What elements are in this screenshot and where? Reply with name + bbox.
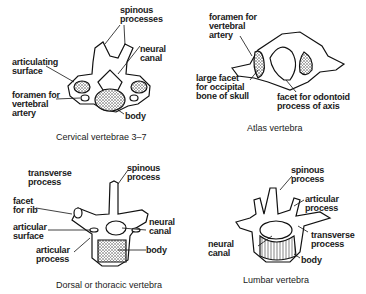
label-articulating-surface: articulating surface xyxy=(12,58,58,76)
label-spinous-processes: spinous processes xyxy=(120,6,163,24)
thoracic-vertebra-drawing xyxy=(72,181,148,266)
label-foramen-vertebral-artery: foramen for vertebral artery xyxy=(12,91,60,118)
label-articular-process: articular process xyxy=(36,246,70,264)
label-dorsal-neural-canal: neural canal xyxy=(149,218,175,236)
label-body: body xyxy=(125,112,146,121)
label-spinous-process: spinous process xyxy=(127,164,160,182)
cervical-vertebra-drawing xyxy=(68,42,150,112)
label-lumbar-articular: articular process xyxy=(305,195,339,213)
label-lumbar-transverse: transverse process xyxy=(311,231,355,249)
label-transverse-process: transverse process xyxy=(28,169,72,187)
caption-lumbar: Lumbar vertebra xyxy=(243,275,309,285)
label-articular-surface: articular surface xyxy=(13,223,47,241)
label-lumbar-spinous: spinous process xyxy=(291,166,324,184)
label-large-facet: large facet for occipital bone of skull xyxy=(196,74,249,101)
label-atlas-foramen: foramen for vertebral artery xyxy=(209,13,257,40)
label-odontoid-facet: facet for odontoid process of axis xyxy=(277,93,350,111)
label-dorsal-body: body xyxy=(146,246,167,255)
label-facet-for-rib: facet for rib xyxy=(13,197,38,215)
caption-atlas: Atlas vertebra xyxy=(247,123,303,133)
label-lumbar-neural: neural canal xyxy=(208,240,234,258)
caption-thoracic: Dorsal or thoracic vertebra xyxy=(56,280,162,290)
label-lumbar-body: body xyxy=(301,256,322,265)
label-neural-canal: neural canal xyxy=(140,45,166,63)
caption-cervical: Cervical vertebrae 3–7 xyxy=(56,132,147,142)
